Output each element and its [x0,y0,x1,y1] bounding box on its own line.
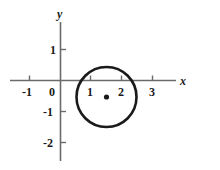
y-tick-label-neg2: -2 [43,137,53,149]
x-tick-label-neg1: -1 [22,86,32,98]
y-tick-label-1: 1 [50,44,56,56]
plot-canvas [0,0,220,170]
circle-center-point [104,94,109,99]
x-tick-label-2: 2 [118,86,124,98]
origin-label: 0 [49,86,55,98]
x-axis-label: x [180,75,186,87]
y-axis-label: y [57,8,62,20]
x-tick-label-3: 3 [149,86,155,98]
y-tick-label-neg1: -1 [43,106,53,118]
x-tick-label-1: 1 [87,86,93,98]
coordinate-plane-figure: x y -1 0 1 2 3 1 -1 -2 [0,0,220,170]
